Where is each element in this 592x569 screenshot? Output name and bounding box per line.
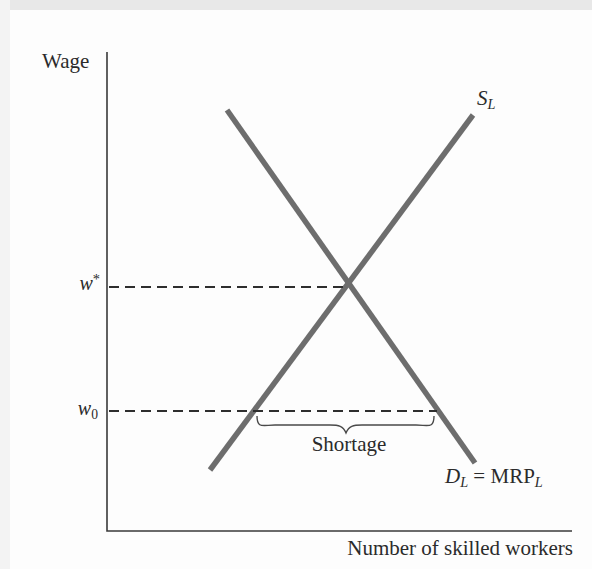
supply-symbol: S [477, 86, 488, 110]
wstar-superscript: * [93, 271, 100, 287]
demand-curve-label: DL = MRPL [445, 465, 543, 491]
y-axis-label: Wage [42, 50, 89, 73]
figure-canvas: Wage Number of skilled workers SL DL = M… [0, 0, 592, 569]
mrp-symbol: MRP [490, 464, 534, 488]
equilibrium-wage-label: w* [56, 272, 100, 294]
w0-symbol: w [78, 397, 91, 419]
x-axis-label: Number of skilled workers [347, 537, 573, 560]
supply-curve-label: SL [477, 87, 495, 113]
shortage-annotation: Shortage [279, 433, 419, 456]
w0-subscript: 0 [91, 407, 98, 422]
supply-subscript: L [488, 96, 496, 112]
mrp-subscript: L [535, 474, 543, 490]
floor-wage-label: w0 [54, 397, 98, 423]
demand-subscript: L [460, 474, 468, 490]
shortage-brace [257, 416, 434, 433]
demand-symbol: D [445, 464, 460, 488]
wstar-symbol: w [79, 272, 92, 294]
equals-sign: = [468, 464, 490, 488]
